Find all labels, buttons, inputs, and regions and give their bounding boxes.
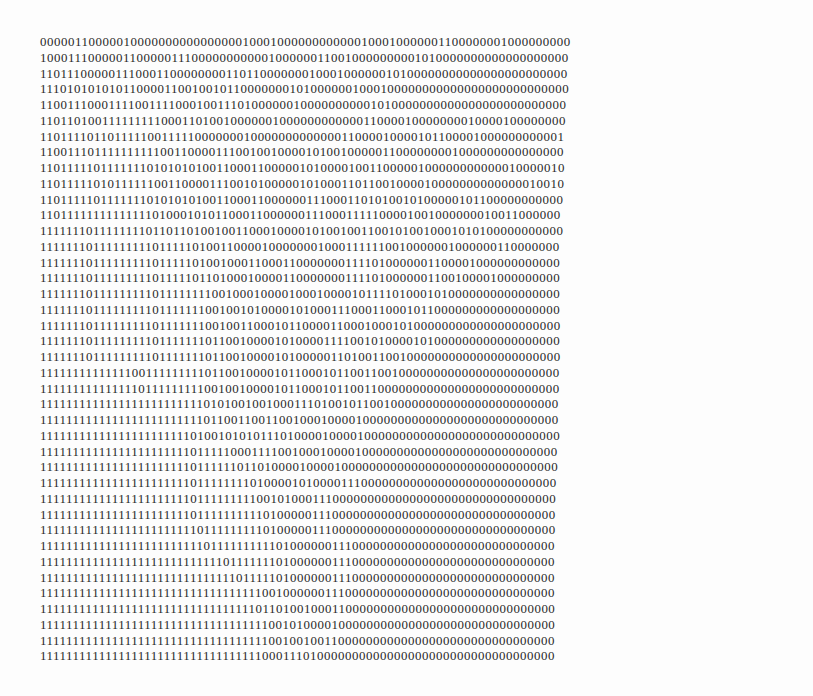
binary-line: 1111111111111110111111111001001000010110…: [40, 382, 571, 398]
binary-line: 1111111011111111101111111011001000010100…: [40, 350, 571, 366]
binary-line: 1101111011011111001111100000001000000000…: [40, 130, 571, 146]
binary-line: 1111111111111111111111101111110110100001…: [40, 460, 571, 476]
binary-line: 1101101001111111110001101001000000100000…: [40, 114, 571, 130]
binary-line: 1111111011111111101111111001001100010110…: [40, 319, 571, 335]
binary-line: 1111111111111111111111111010100100100011…: [40, 397, 571, 413]
binary-line: 1100111000111100111100010011101000000100…: [40, 98, 571, 114]
binary-line: 1110101010101100001100100101100000001010…: [40, 82, 571, 98]
binary-line: 1111111111111111111111101111111101000010…: [40, 476, 571, 492]
binary-line: 1101111111111111101000101011000110000001…: [40, 208, 571, 224]
binary-line: 1111111011111111101111111011001000010100…: [40, 334, 571, 350]
binary-line: 1111111111111111111111101001010101110100…: [40, 429, 571, 445]
binary-line: 1111111111111111111111111011111111110100…: [40, 539, 571, 555]
binary-line: 1111111111111111111111111111111111000111…: [40, 649, 571, 665]
binary-line: 1111111111111111111111111011001100110010…: [40, 413, 571, 429]
binary-line: 1111111111111111111111111111111111100101…: [40, 618, 571, 634]
binary-line: 1111111011111111101111101001100001000000…: [40, 240, 571, 256]
binary-line: 1101111101011111100110000111001010000010…: [40, 177, 571, 193]
binary-line: 1111111111111111111111111111111110110100…: [40, 602, 571, 618]
binary-line: 0000011000001000000000000000010001000000…: [40, 35, 571, 51]
document-page: 0000011000001000000000000000010001000000…: [0, 0, 813, 696]
binary-line: 1111111111111111111111101111111110010100…: [40, 492, 571, 508]
binary-line: 1111111111111111111111101111100011110010…: [40, 445, 571, 461]
binary-line: 1111111111111111111111101111111111010000…: [40, 508, 571, 524]
binary-line: 1100111011111111110011000011100100100001…: [40, 145, 571, 161]
binary-line: 1000111000001100000111000000000001000000…: [40, 51, 571, 67]
binary-line: 1111111011111111101111101001000110001100…: [40, 256, 571, 272]
binary-line: 1111111111111111111111111111011111110100…: [40, 555, 571, 571]
binary-line: 1111111111111111111111111111110111110100…: [40, 571, 571, 587]
binary-line: 1111111011111111101111111001001010000101…: [40, 303, 571, 319]
binary-line: 1111111011111111101111101101000100001100…: [40, 271, 571, 287]
binary-line: 1111111011111111101111111100100010000100…: [40, 287, 571, 303]
binary-line: 1111111111111111111111111111111111001000…: [40, 586, 571, 602]
binary-line: 1111111011111111011011010010011000100001…: [40, 224, 571, 240]
binary-line: 1101111101111111010101010011000110000010…: [40, 161, 571, 177]
binary-text-block: 0000011000001000000000000000010001000000…: [40, 35, 571, 665]
binary-line: 1111111111111111111111111111111111100100…: [40, 634, 571, 650]
binary-line: 1111111111111111111111110111111111010000…: [40, 523, 571, 539]
binary-line: 1111111111111100111111111011001000010110…: [40, 366, 571, 382]
binary-line: 1101110000011100011000000001101100000001…: [40, 67, 571, 83]
binary-line: 1101111101111111010101010011000110000001…: [40, 193, 571, 209]
